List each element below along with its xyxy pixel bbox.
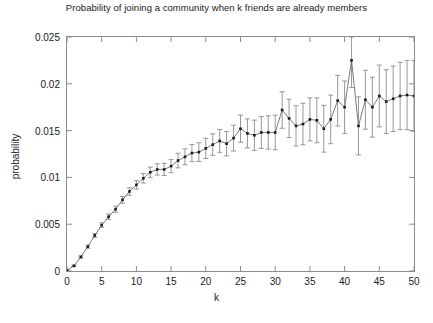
data-point bbox=[232, 137, 235, 140]
y-tick-label: 0.02 bbox=[14, 78, 60, 89]
data-point bbox=[170, 165, 173, 168]
data-point bbox=[309, 118, 312, 121]
series-group bbox=[67, 37, 414, 271]
data-point bbox=[121, 199, 124, 202]
data-point bbox=[80, 256, 83, 259]
chart-figure: Probability of joining a community when … bbox=[0, 0, 433, 323]
plot-area bbox=[66, 36, 415, 272]
x-tick-label: 30 bbox=[260, 276, 290, 287]
data-point bbox=[225, 142, 228, 145]
data-point bbox=[336, 99, 339, 102]
y-axis-tick-labels: 00.0050.010.0150.020.025 bbox=[12, 0, 60, 323]
x-axis-tick-labels: 05101520253035404550 bbox=[0, 276, 433, 292]
data-point bbox=[93, 234, 96, 237]
data-point bbox=[413, 95, 414, 98]
data-point bbox=[128, 190, 131, 193]
x-tick-label: 5 bbox=[87, 276, 117, 287]
data-point bbox=[267, 131, 270, 134]
data-point bbox=[364, 98, 367, 101]
x-tick-label: 15 bbox=[156, 276, 186, 287]
data-point bbox=[281, 109, 284, 112]
data-point bbox=[67, 269, 68, 271]
data-point bbox=[322, 127, 325, 130]
x-tick-label: 25 bbox=[226, 276, 256, 287]
data-point bbox=[184, 156, 187, 159]
data-point bbox=[100, 224, 103, 227]
x-axis-label: k bbox=[0, 292, 433, 303]
data-point bbox=[392, 97, 395, 100]
x-tick-label: 45 bbox=[364, 276, 394, 287]
y-tick-label: 0 bbox=[14, 266, 60, 277]
data-point bbox=[87, 245, 90, 248]
data-point bbox=[205, 147, 208, 150]
data-point bbox=[260, 131, 263, 134]
data-point bbox=[253, 134, 256, 137]
data-point bbox=[295, 125, 298, 128]
data-point bbox=[246, 132, 249, 135]
data-point bbox=[302, 123, 305, 126]
data-point bbox=[163, 168, 166, 171]
y-tick-label: 0.005 bbox=[14, 219, 60, 230]
data-point bbox=[239, 127, 242, 130]
data-point bbox=[385, 100, 388, 103]
data-point bbox=[73, 265, 76, 268]
data-plot bbox=[67, 37, 414, 271]
data-point bbox=[114, 208, 117, 211]
y-tick-label: 0.025 bbox=[14, 32, 60, 43]
x-tick-label: 20 bbox=[191, 276, 221, 287]
data-point bbox=[343, 106, 346, 109]
x-tick-label: 50 bbox=[399, 276, 429, 287]
x-tick-label: 40 bbox=[330, 276, 360, 287]
data-point bbox=[191, 152, 194, 155]
data-point bbox=[350, 59, 353, 62]
data-point bbox=[399, 95, 402, 98]
data-point bbox=[288, 117, 291, 120]
data-point bbox=[316, 119, 319, 122]
x-tick-label: 0 bbox=[52, 276, 82, 287]
data-point bbox=[274, 131, 277, 134]
data-point bbox=[357, 125, 360, 128]
data-point bbox=[406, 94, 409, 97]
x-tick-label: 10 bbox=[121, 276, 151, 287]
y-tick-label: 0.01 bbox=[14, 172, 60, 183]
chart-title: Probability of joining a community when … bbox=[0, 2, 433, 13]
data-point bbox=[211, 143, 214, 146]
data-point bbox=[329, 118, 332, 121]
data-point bbox=[177, 159, 180, 162]
y-tick-label: 0.015 bbox=[14, 125, 60, 136]
data-point bbox=[107, 215, 110, 218]
data-point bbox=[135, 184, 138, 187]
data-point bbox=[149, 171, 152, 174]
data-point bbox=[142, 177, 145, 180]
x-tick-label: 35 bbox=[295, 276, 325, 287]
data-point bbox=[378, 95, 381, 98]
data-point bbox=[218, 140, 221, 143]
data-point bbox=[198, 151, 201, 154]
data-point bbox=[371, 106, 374, 109]
data-point bbox=[156, 168, 159, 171]
